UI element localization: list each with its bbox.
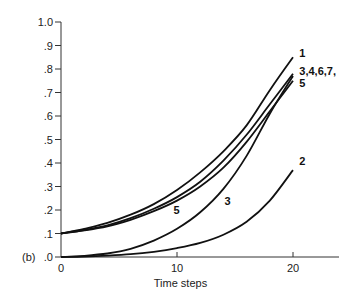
y-tick-label: .1	[44, 228, 53, 240]
series-label: 3	[225, 195, 231, 207]
y-tick-label: .7	[44, 87, 53, 99]
x-tick-label: 10	[171, 262, 183, 274]
x-tick-label: 0	[58, 262, 64, 274]
x-axis-title: Time steps	[154, 277, 208, 289]
y-tick-label: .5	[44, 134, 53, 146]
y-tick-label: .3	[44, 181, 53, 193]
series-label: 3,4,6,7,	[299, 65, 336, 77]
series-label: 5	[174, 204, 180, 216]
y-tick-label: .8	[44, 63, 53, 75]
y-tick-label: .0	[44, 251, 53, 263]
panel-label: (b)	[22, 251, 35, 263]
series-label: 1	[299, 47, 305, 59]
y-tick-label: .4	[44, 157, 53, 169]
series-label: 2	[299, 155, 305, 167]
y-tick-label: .9	[44, 40, 53, 52]
series-label: 5	[299, 77, 305, 89]
y-tick-label: .2	[44, 204, 53, 216]
x-tick-label: 20	[287, 262, 299, 274]
y-tick-label: .6	[44, 110, 53, 122]
curves	[61, 57, 293, 257]
line-chart: .0.1.2.3.4.5.6.7.8.91.001020Time steps(b…	[0, 0, 356, 305]
y-tick-label: 1.0	[38, 16, 53, 28]
series-line-3	[61, 76, 293, 257]
